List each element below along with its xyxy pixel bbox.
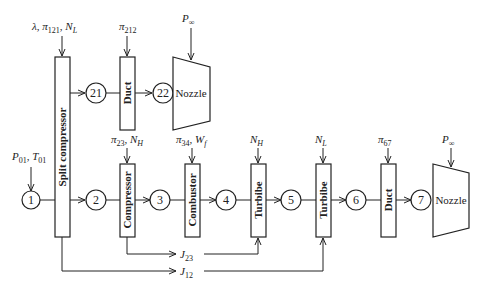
duct-top-block: Duct <box>120 57 135 130</box>
turbine-high-input-label: NH <box>249 133 264 148</box>
svg-text:5: 5 <box>288 193 294 207</box>
combustor-block: Combustor <box>185 164 200 237</box>
svg-text:2: 2 <box>93 193 99 207</box>
duct-bottom-input-label: π67 <box>378 133 392 148</box>
node-2: 2 <box>86 190 106 210</box>
turbine-low-block: Turbibe <box>316 164 331 237</box>
node-21: 21 <box>86 83 106 103</box>
duct-top-input-label: π212 <box>119 20 137 35</box>
svg-text:22: 22 <box>157 86 169 100</box>
nozzle-top-input-label: P∞ <box>181 12 195 27</box>
split-compressor-inputs-label: λ, π121, NL <box>31 20 78 35</box>
node-3: 3 <box>150 190 170 210</box>
svg-text:Compressor: Compressor <box>121 171 133 228</box>
nozzle-bottom-input-label: P∞ <box>441 133 455 148</box>
turbine-low-input-label: NL <box>314 133 327 148</box>
nozzle-top-block: Nozzle <box>173 57 210 130</box>
shaft-j23-right-arrow <box>204 238 258 254</box>
svg-text:Combustor: Combustor <box>186 173 198 226</box>
compressor-block: Compressor <box>120 164 135 237</box>
svg-text:1: 1 <box>28 193 34 207</box>
engine-flow-diagram: P01, T01 1 λ, π121, NL Split compressor … <box>0 0 487 289</box>
node-4: 4 <box>216 190 236 210</box>
svg-text:Duct: Duct <box>121 81 133 104</box>
shaft-j12-label: J12 <box>180 265 193 280</box>
node-7: 7 <box>411 190 431 210</box>
svg-text:21: 21 <box>90 86 102 100</box>
svg-text:Turbibe: Turbibe <box>317 181 329 219</box>
svg-text:Duct: Duct <box>382 188 394 211</box>
duct-bottom-block: Duct <box>381 164 396 237</box>
inlet-conditions-label: P01, T01 <box>11 150 46 165</box>
node-22: 22 <box>153 83 173 103</box>
svg-text:Nozzle: Nozzle <box>435 194 466 206</box>
node-1: 1 <box>22 191 40 209</box>
node-6: 6 <box>346 190 366 210</box>
turbine-high-block: Turbibe <box>251 164 266 237</box>
svg-text:4: 4 <box>223 193 229 207</box>
svg-text:Turbibe: Turbibe <box>252 181 264 219</box>
svg-text:7: 7 <box>418 193 424 207</box>
svg-text:Nozzle: Nozzle <box>175 87 206 99</box>
shaft-j23-label: J23 <box>180 248 193 263</box>
nozzle-bottom-block: Nozzle <box>433 164 469 237</box>
compressor-inputs-label: π23, NH <box>111 133 144 148</box>
svg-text:Split compressor: Split compressor <box>56 107 68 186</box>
split-compressor-block: Split compressor <box>55 57 70 237</box>
svg-text:3: 3 <box>157 193 163 207</box>
node-5: 5 <box>281 190 301 210</box>
svg-text:6: 6 <box>353 193 359 207</box>
combustor-inputs-label: π34, Wf <box>176 133 208 148</box>
shaft-j23-left-arrow <box>127 237 176 254</box>
